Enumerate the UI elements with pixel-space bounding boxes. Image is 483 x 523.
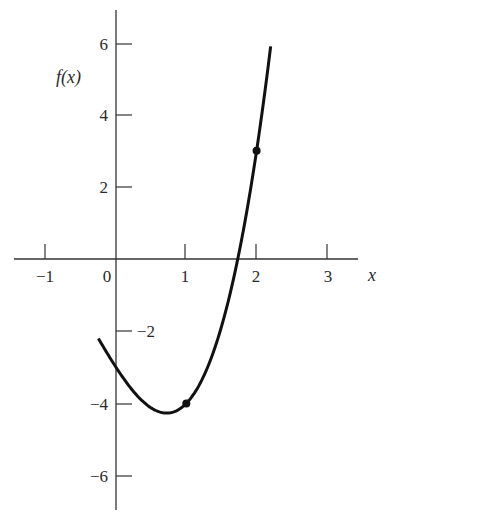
x-tick-label: 3 (324, 267, 333, 286)
y-ticks (116, 44, 132, 476)
y-tick-label: 6 (100, 35, 109, 54)
x-axis-label: x (367, 265, 376, 285)
y-tick-label: −2 (137, 322, 155, 341)
x-tick-label: 2 (252, 267, 261, 286)
y-tick-label: −4 (90, 395, 109, 414)
x-ticks (45, 244, 327, 259)
y-tick-label: 4 (100, 106, 109, 125)
function-curve (98, 46, 270, 413)
x-tick-label: 1 (181, 267, 190, 286)
marked-points (182, 147, 260, 408)
data-point (253, 147, 261, 155)
x-tick-label: −1 (36, 267, 54, 286)
y-tick-label: 2 (100, 178, 109, 197)
data-point (182, 399, 190, 407)
y-tick-label: −6 (90, 467, 108, 486)
y-axis-label: f(x) (56, 67, 81, 88)
x-tick-label: 0 (103, 267, 112, 286)
function-plot: −1 0 1 2 3 x 6 4 2 −2 −4 −6 f(x) (0, 0, 483, 523)
